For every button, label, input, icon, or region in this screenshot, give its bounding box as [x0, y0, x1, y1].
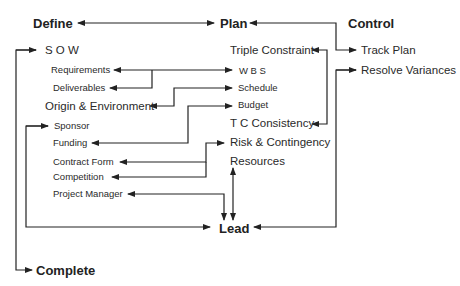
item-sponsor: Sponsor: [54, 121, 89, 131]
item-deliverables: Deliverables: [53, 83, 105, 93]
tc-arrow: [312, 50, 327, 124]
item-project-manager: Project Manager: [53, 189, 123, 199]
pm-lead-arrow: [128, 194, 224, 220]
phase-control: Control: [348, 17, 394, 30]
item-wbs: W B S: [239, 66, 266, 76]
item-funding: Funding: [53, 138, 87, 148]
item-origin-environment: Origin & Environment: [45, 101, 154, 113]
process-diagram: Define Plan Control Lead Complete S O W …: [0, 0, 460, 286]
item-schedule: Schedule: [238, 83, 278, 93]
item-budget: Budget: [238, 100, 268, 110]
phase-complete: Complete: [36, 264, 95, 277]
item-contract-form: Contract Form: [53, 157, 114, 167]
item-competition: Competition: [53, 172, 104, 182]
origin-schedule-arrow: [150, 88, 232, 106]
item-resources: Resources: [230, 156, 285, 168]
item-tc-consistency: T C Consistency: [230, 118, 314, 130]
resolve-lead-arrow: [254, 70, 356, 227]
item-sow: S O W: [45, 45, 79, 57]
contract-risk-arrow: [120, 143, 224, 162]
item-requirements: Requirements: [51, 65, 110, 75]
item-resolve-variances: Resolve Variances: [361, 65, 456, 77]
item-track-plan: Track Plan: [361, 45, 416, 57]
item-triple-constraint: Triple Constraint: [230, 45, 314, 57]
phase-lead: Lead: [219, 222, 249, 235]
phase-plan: Plan: [220, 17, 247, 30]
phase-define: Define: [33, 17, 73, 30]
item-risk-contingency: Risk & Contingency: [230, 137, 330, 149]
